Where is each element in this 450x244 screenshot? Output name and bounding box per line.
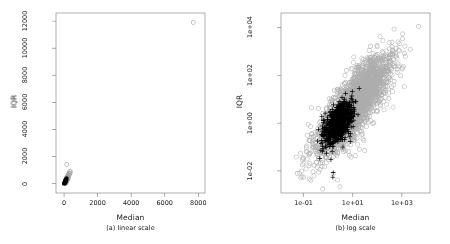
- y-tick-label: 1e+02: [246, 51, 254, 100]
- x-tick-label: 6000: [156, 199, 173, 207]
- panel-caption-linear: (a) linear scale: [0, 224, 243, 232]
- x-axis-title-log: Median: [225, 213, 450, 222]
- x-tick-label: 1e-01: [294, 199, 313, 207]
- x-tick-label: 1e+01: [342, 199, 364, 207]
- y-axis-title-log: IQR: [235, 80, 244, 124]
- y-tick-label: 12000: [21, 0, 29, 46]
- x-tick-label: 0: [62, 199, 66, 207]
- x-tick-label: 2000: [89, 199, 106, 207]
- panel-log-scale: IQR Median (b) log scale 1e-011e+011e+03…: [225, 0, 450, 244]
- panel-linear-scale: IQR Median (a) linear scale 020004000600…: [0, 0, 225, 244]
- y-tick-label: 1e+04: [246, 3, 254, 52]
- scatter-plot-log: [225, 0, 450, 244]
- x-axis-title-linear: Median: [0, 213, 243, 222]
- scatter-plot-linear: [0, 0, 225, 244]
- y-tick-label: 1e+00: [246, 99, 254, 148]
- x-tick-label: 1e+03: [391, 199, 413, 207]
- y-axis-title-linear: IQR: [10, 80, 19, 124]
- x-tick-label: 8000: [190, 199, 207, 207]
- x-tick-label: 4000: [123, 199, 140, 207]
- figure-container: IQR Median (a) linear scale 020004000600…: [0, 0, 450, 244]
- y-tick-label: 1e-02: [246, 146, 254, 195]
- panel-caption-log: (b) log scale: [225, 224, 450, 232]
